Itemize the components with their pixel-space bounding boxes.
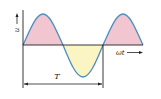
x-axis-label: ωt	[116, 49, 125, 57]
positive-half-wave-fill	[23, 14, 63, 45]
period-arrowhead-right-icon	[98, 83, 102, 86]
sine-wave-diagram: u ωt T	[0, 0, 161, 99]
y-axis-label: u	[13, 27, 21, 32]
period-label: T	[54, 72, 60, 81]
x-label-arrowhead-icon	[139, 51, 143, 54]
negative-half-wave-fill	[63, 45, 103, 77]
positive-half-wave-fill-2	[103, 14, 143, 45]
y-label-arrowhead-icon	[16, 13, 19, 17]
period-arrowhead-left-icon	[24, 83, 28, 86]
